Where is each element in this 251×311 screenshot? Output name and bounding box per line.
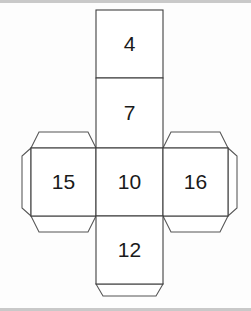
face-label-right: 16 bbox=[184, 170, 207, 193]
face-label-bottom: 12 bbox=[118, 238, 141, 261]
flap-right-side bbox=[228, 148, 237, 216]
cube-net-figure: 4 7 15 10 16 12 bbox=[0, 3, 251, 311]
flap-left-side bbox=[22, 148, 31, 216]
face-label-upper: 7 bbox=[124, 101, 136, 124]
flap-left-top bbox=[31, 132, 96, 148]
flap-right-bottom bbox=[163, 216, 228, 232]
flap-right-top bbox=[163, 132, 228, 148]
flap-left-bottom bbox=[31, 216, 96, 232]
face-label-left: 15 bbox=[52, 170, 75, 193]
face-label-center: 10 bbox=[118, 170, 141, 193]
diagram-canvas: 4 7 15 10 16 12 bbox=[0, 0, 251, 311]
flap-bottom bbox=[96, 284, 163, 296]
face-label-top: 4 bbox=[124, 32, 136, 55]
